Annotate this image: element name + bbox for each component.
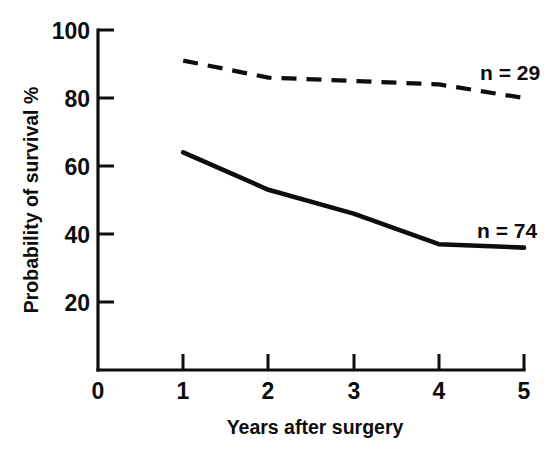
x-axis-ticks: [183, 354, 524, 370]
y-tick-label-80: 80: [64, 86, 90, 112]
x-tick-label-0: 0: [92, 378, 105, 404]
series-annotation-n29: n = 29: [480, 61, 540, 84]
series-annotation-n74: n = 74: [477, 219, 537, 242]
chart-canvas: 100 80 60 40 20 0 1 2 3 4 5 Years after …: [0, 0, 547, 452]
x-tick-label-2: 2: [262, 378, 275, 404]
y-axis-ticks: [98, 30, 114, 302]
y-axis-title: Probability of survival %: [20, 87, 42, 313]
y-tick-label-40: 40: [64, 222, 90, 248]
x-tick-label-1: 1: [177, 378, 190, 404]
y-tick-label-60: 60: [64, 154, 90, 180]
x-axis-tick-labels: 0 1 2 3 4 5: [92, 378, 531, 404]
y-tick-label-100: 100: [52, 18, 90, 44]
y-tick-label-20: 20: [64, 290, 90, 316]
series-line-n74: [183, 152, 524, 247]
series-line-n29: [183, 61, 524, 98]
y-axis-tick-labels: 100 80 60 40 20: [52, 18, 90, 316]
x-tick-label-4: 4: [433, 378, 446, 404]
x-tick-label-5: 5: [518, 378, 531, 404]
x-axis-title: Years after surgery: [227, 416, 404, 438]
survival-curve-figure: 100 80 60 40 20 0 1 2 3 4 5 Years after …: [0, 0, 547, 452]
x-tick-label-3: 3: [348, 378, 361, 404]
